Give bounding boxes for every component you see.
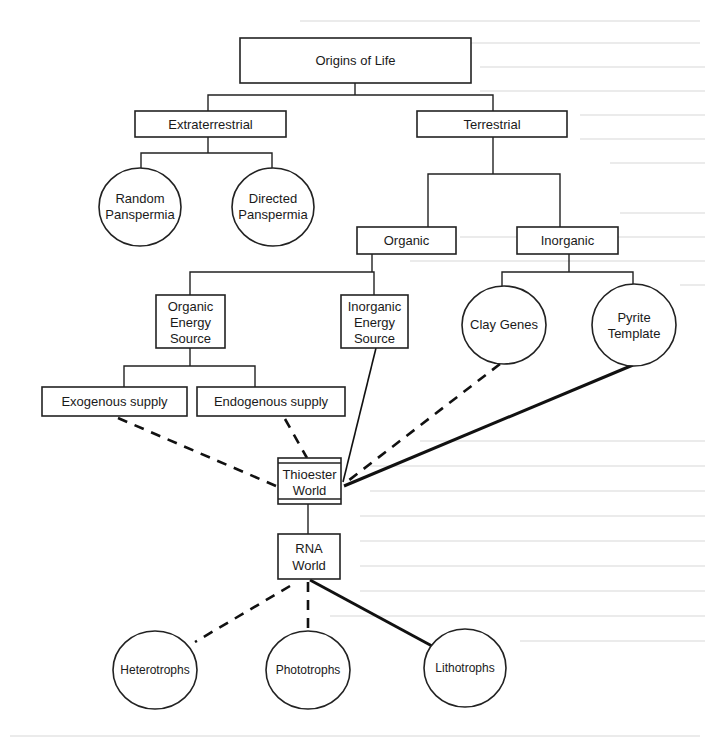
origins-of-life-diagram: Origins of Life Extraterrestrial Terrest… [0,0,712,753]
node-label-line2: Panspermia [238,207,308,222]
node-label-line2: Panspermia [105,207,175,222]
node-label: Inorganic [541,233,595,248]
node-organic-energy-source: Organic Energy Source [156,295,225,348]
node-label-line1: Directed [249,191,297,206]
node-label-line2: World [292,558,326,573]
node-terrestrial: Terrestrial [417,111,567,137]
node-label: Terrestrial [463,117,520,132]
node-label: Organic [384,233,430,248]
edge-pyrite-to-thioester [344,365,633,486]
edge-endogenous-to-thioester [285,419,307,458]
node-label-line3: Source [354,331,395,346]
node-rna-world: RNA World [278,534,340,579]
node-label-line2: Energy [354,315,396,330]
node-extraterrestrial: Extraterrestrial [135,111,286,137]
node-random-panspermia: Random Panspermia [99,168,181,246]
node-label-line2: Energy [170,315,212,330]
node-label-line1: Random [115,191,164,206]
node-label: Origins of Life [315,53,395,68]
node-label-line2: World [293,483,327,498]
node-thioester-world: Thioester World [278,458,341,504]
node-heterotrophs: Heterotrophs [113,631,197,709]
node-lithotrophs: Lithotrophs [424,629,506,707]
node-phototrophs: Phototrophs [266,631,350,709]
node-label: Exogenous supply [61,394,168,409]
node-label-line1: Pyrite [617,310,650,325]
node-inorganic-energy-source: Inorganic Energy Source [341,295,408,348]
edge-exogenous-to-thioester [118,418,276,486]
node-label-line2: Template [608,326,661,341]
node-label-line1: Inorganic [348,299,402,314]
node-label-line1: Organic [168,299,214,314]
node-label: Lithotrophs [435,661,494,675]
node-label: Phototrophs [276,663,341,677]
node-label: Extraterrestrial [168,117,253,132]
node-label: Heterotrophs [120,663,189,677]
convergent-edges [118,348,633,486]
node-label: Clay Genes [470,317,538,332]
node-clay-genes: Clay Genes [462,286,546,364]
edge-inorganic-energy-to-thioester [343,348,376,482]
node-origins-of-life: Origins of Life [240,38,471,83]
node-label-line3: Source [170,331,211,346]
node-exogenous-supply: Exogenous supply [42,387,187,416]
node-organic: Organic [357,227,456,254]
node-label: Endogenous supply [214,394,329,409]
node-endogenous-supply: Endogenous supply [197,387,345,416]
node-inorganic: Inorganic [517,227,618,254]
node-directed-panspermia: Directed Panspermia [232,168,314,246]
node-label-line1: RNA [295,541,323,556]
node-pyrite-template: Pyrite Template [592,284,676,366]
edge-rna-to-heterotrophs [195,586,290,642]
node-label-line1: Thioester [282,467,337,482]
